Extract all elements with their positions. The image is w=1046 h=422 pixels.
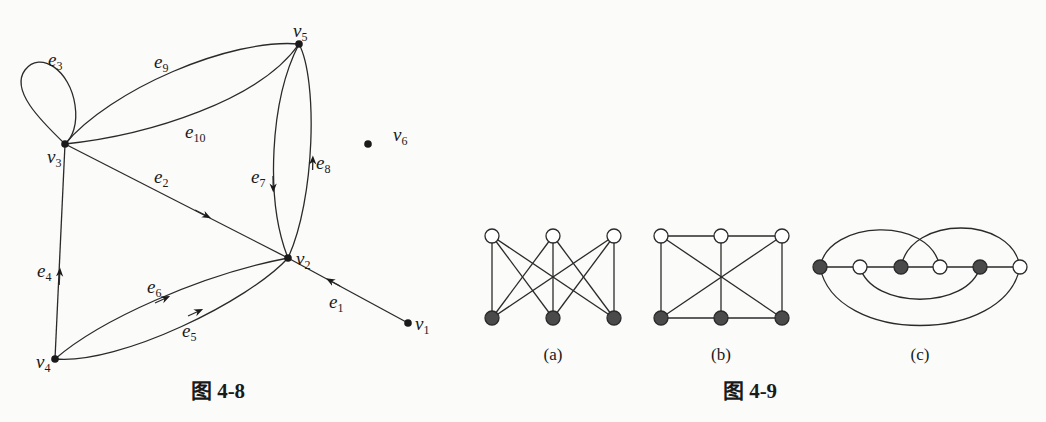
edge-label-e2: e2 xyxy=(154,166,168,190)
edge-e2-arrow xyxy=(195,210,207,216)
vertex-label-v3: v3 xyxy=(47,146,61,170)
vertex-label-v6: v6 xyxy=(393,124,407,148)
caption-figure-4-8: 图 4-8 xyxy=(191,379,245,403)
edge-label-e6: e6 xyxy=(147,276,161,300)
caption-figure-4-9: 图 4-9 xyxy=(723,379,777,403)
node-filled xyxy=(654,311,668,325)
edge-label-e7: e7 xyxy=(251,166,265,190)
edge-e8 xyxy=(288,44,311,258)
node-open xyxy=(1013,260,1027,274)
edge-e2 xyxy=(65,144,288,258)
vertex-label-v4: v4 xyxy=(36,351,50,375)
vertex-label-v2: v2 xyxy=(296,248,310,272)
edge-label-e8: e8 xyxy=(316,152,330,176)
node-open xyxy=(654,229,668,243)
edge-label-e1: e1 xyxy=(329,291,343,315)
node-open xyxy=(485,229,499,243)
node-open xyxy=(714,229,728,243)
figure-4-9-a: (a) xyxy=(485,229,621,364)
edge-label-e4: e4 xyxy=(37,260,51,284)
edge-e5 xyxy=(55,258,288,359)
node-open xyxy=(546,229,560,243)
edge-e9 xyxy=(65,44,299,144)
node-filled xyxy=(485,311,499,325)
edge-label-e5: e5 xyxy=(182,320,196,344)
node-open xyxy=(853,260,867,274)
subcaption-b: (b) xyxy=(711,345,731,364)
node-open xyxy=(607,229,621,243)
node-filled xyxy=(813,260,827,274)
edge-e5-arrow xyxy=(188,311,199,316)
edge-label-e3: e3 xyxy=(48,49,62,73)
vertex-label-v5: v5 xyxy=(293,20,307,44)
node-filled xyxy=(775,311,789,325)
node-filled xyxy=(607,311,621,325)
subcaption-a: (a) xyxy=(544,345,563,364)
figure-4-8: v1 v2 v3 v4 v5 v6 e1 e2 e3 e4 e5 e6 e7 e… xyxy=(21,20,429,403)
figures-canvas: v1 v2 v3 v4 v5 v6 e1 e2 e3 e4 e5 e6 e7 e… xyxy=(0,0,1046,422)
node-open xyxy=(775,229,789,243)
edge-e6 xyxy=(55,258,288,359)
edge-label-e9: e9 xyxy=(154,51,168,75)
vertex-v1 xyxy=(404,319,412,327)
edge-e4-arrow xyxy=(59,272,60,285)
edge-e7 xyxy=(274,44,299,258)
edge-e4 xyxy=(55,144,65,359)
node-filled xyxy=(546,311,560,325)
subcaption-c: (c) xyxy=(911,345,930,364)
node-filled xyxy=(894,260,908,274)
edge-label-e10: e10 xyxy=(185,121,205,145)
edge-e10 xyxy=(65,44,299,144)
vertex-v6 xyxy=(364,140,372,148)
vertex-v2 xyxy=(284,254,292,262)
node-open xyxy=(933,260,947,274)
figure-4-9-b: (b) xyxy=(654,229,789,364)
edge-e1-arrow xyxy=(330,281,340,287)
node-filled xyxy=(714,311,728,325)
vertex-v3 xyxy=(61,140,69,148)
vertex-v4 xyxy=(51,355,59,363)
figure-4-9-c: (c) xyxy=(813,228,1027,364)
vertex-label-v1: v1 xyxy=(415,313,429,337)
node-filled xyxy=(973,260,987,274)
edge-e3 xyxy=(21,62,76,144)
